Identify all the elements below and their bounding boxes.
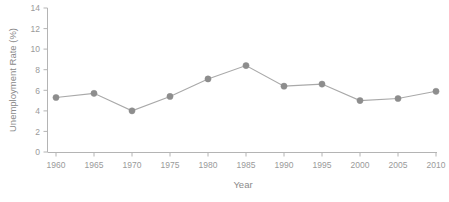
data-point-marker [129, 108, 135, 114]
data-point-marker [319, 81, 325, 87]
unemployment-rate-line-chart: 14 12 10 8 6 4 2 0 Unemployment Rate (%) [0, 0, 449, 202]
data-point-marker [167, 93, 173, 99]
data-point-marker [91, 90, 97, 96]
data-point-marker [243, 63, 249, 69]
x-axis-title: Year [233, 179, 252, 190]
chart-canvas: 14 12 10 8 6 4 2 0 Unemployment Rate (%) [0, 0, 449, 202]
data-point-marker [53, 94, 59, 100]
x-tick-label: 1980 [199, 160, 218, 170]
y-axis-ticks [44, 8, 48, 152]
y-axis-group: 14 12 10 8 6 4 2 0 Unemployment Rate (%) [7, 3, 48, 157]
x-tick-label: 1995 [313, 160, 332, 170]
x-tick-label: 1965 [85, 160, 104, 170]
x-tick-label: 1975 [161, 160, 180, 170]
y-tick-label: 6 [35, 86, 40, 96]
x-tick-labels: 1960 1965 1970 1975 1980 1985 1990 1995 … [47, 160, 446, 170]
x-tick-label: 2000 [351, 160, 370, 170]
x-tick-label: 2010 [427, 160, 446, 170]
x-tick-label: 2005 [389, 160, 408, 170]
y-tick-label: 4 [35, 106, 40, 116]
y-tick-label: 2 [35, 127, 40, 137]
y-tick-label: 12 [31, 24, 41, 34]
y-tick-label: 8 [35, 65, 40, 75]
unemployment-series-markers [53, 63, 439, 114]
y-axis-title: Unemployment Rate (%) [7, 28, 18, 132]
data-point-marker [395, 95, 401, 101]
y-tick-labels: 14 12 10 8 6 4 2 0 [31, 3, 41, 157]
x-tick-label: 1990 [275, 160, 294, 170]
data-point-marker [357, 97, 363, 103]
y-tick-label: 14 [31, 3, 41, 13]
y-tick-label: 10 [31, 44, 41, 54]
data-point-marker [281, 83, 287, 89]
y-tick-label: 0 [35, 147, 40, 157]
x-tick-label: 1985 [237, 160, 256, 170]
data-point-marker [205, 76, 211, 82]
x-tick-label: 1970 [123, 160, 142, 170]
x-axis-group: 1960 1965 1970 1975 1980 1985 1990 1995 … [47, 153, 446, 191]
data-point-marker [433, 88, 439, 94]
unemployment-series-line [56, 66, 436, 111]
x-tick-label: 1960 [47, 160, 66, 170]
x-axis-ticks [56, 153, 436, 157]
